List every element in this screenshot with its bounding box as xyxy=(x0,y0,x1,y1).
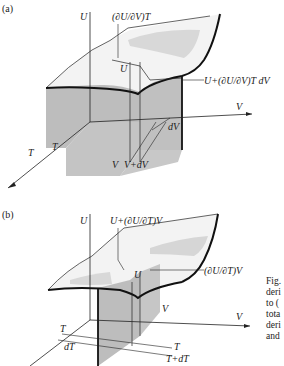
T-tick-label-b: T xyxy=(60,323,67,334)
T-plus-dT-label-b: T+dT xyxy=(166,353,190,364)
increment-label-a: U+(∂U/∂V)T dV xyxy=(204,75,272,87)
axis-V-label-b: V xyxy=(236,311,244,322)
panel-b-label: (b) xyxy=(2,209,14,221)
panel-a: (a) U (∂U/∂V)T U U+(∂U/∂V)T xyxy=(2,3,272,188)
slope-label-a: (∂U/∂V)T xyxy=(112,11,152,23)
caption-line-4: tota xyxy=(266,309,281,319)
panel-a-label: (a) xyxy=(2,3,13,15)
dV-label-a: dV xyxy=(168,121,181,132)
thermodynamic-surface-figure: (a) U (∂U/∂V)T U U+(∂U/∂V)T xyxy=(0,0,284,366)
V-tick-label-b: V xyxy=(162,303,170,314)
point-U-label-a: U xyxy=(120,63,128,74)
caption-line-5: deri xyxy=(266,320,281,330)
panel-b: (b) U U+(∂U/∂T)V U (∂U/∂T)V V V xyxy=(2,209,250,366)
axis-U-label-a: U xyxy=(80,11,88,22)
V-plus-dV-label-a: V+dV xyxy=(124,159,150,170)
caption-line-6: and xyxy=(266,331,280,341)
caption-line-2: deri xyxy=(266,287,281,297)
axis-V-label-a: V xyxy=(236,101,244,112)
caption-line-1: Fig. xyxy=(266,276,281,286)
dT-label-b: dT xyxy=(64,341,76,352)
axis-U-label-b: U xyxy=(80,215,88,226)
axis-T-label-a: T xyxy=(28,147,35,158)
caption-line-3: to ( xyxy=(266,298,279,309)
T-right-label-b: T xyxy=(174,341,181,352)
point-U-label-b: U xyxy=(134,269,142,280)
figure-caption: Fig. deri to ( tota deri and xyxy=(266,276,281,341)
increment-label-b: U+(∂U/∂T)V xyxy=(110,215,164,227)
slope-label-b: (∂U/∂T)V xyxy=(204,265,244,277)
